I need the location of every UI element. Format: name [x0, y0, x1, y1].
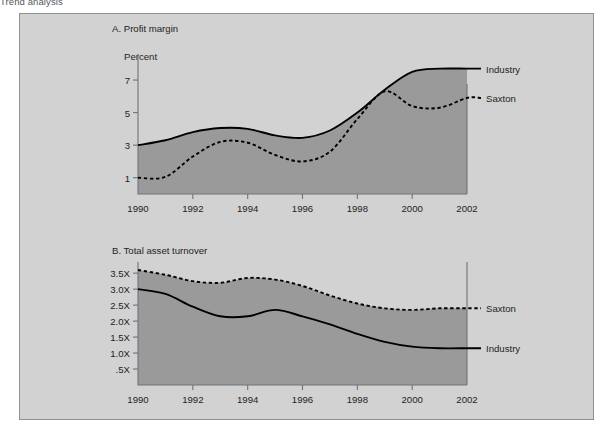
series-label-saxton: Saxton: [486, 92, 516, 103]
x-tick-label: 1990: [127, 394, 148, 405]
x-tick-label: 1990: [127, 203, 148, 214]
y-tick-label: 5: [125, 107, 130, 118]
y-tick-label: 2.5X: [110, 300, 130, 311]
chart-profit-margin: A. Profit margin Percent 135719901992199…: [20, 14, 595, 224]
y-tick-label: 1.0X: [110, 348, 130, 359]
x-tick-label: 1994: [237, 203, 258, 214]
y-tick-label: 3: [125, 140, 130, 151]
series-label-saxton: Saxton: [486, 303, 516, 314]
x-tick-label: 2000: [401, 394, 422, 405]
y-tick-label: 7: [125, 75, 130, 86]
y-tick-label: 1: [125, 172, 130, 183]
chart-a-canvas: [20, 14, 595, 224]
y-tick-label: 3.5X: [110, 268, 130, 279]
x-tick-label: 1992: [182, 203, 203, 214]
figure-caption: Trend analysis: [0, 0, 63, 7]
x-tick-label: 1992: [182, 394, 203, 405]
x-tick-label: 1998: [347, 394, 368, 405]
x-tick-label: 2000: [401, 203, 422, 214]
x-tick-label: 1996: [292, 394, 313, 405]
x-tick-label: 1996: [292, 203, 313, 214]
x-tick-label: 2002: [456, 203, 477, 214]
y-tick-label: 1.5X: [110, 332, 130, 343]
x-tick-label: 1994: [237, 394, 258, 405]
y-tick-label: 3.0X: [110, 284, 130, 295]
series-label-industry: Industry: [486, 63, 520, 74]
chart-b-canvas: [20, 224, 595, 421]
y-tick-label: 2.0X: [110, 316, 130, 327]
chart-area-fill: [138, 270, 467, 385]
series-label-industry: Industry: [486, 343, 520, 354]
x-tick-label: 2002: [456, 394, 477, 405]
chart-area-fill: [138, 68, 467, 194]
x-tick-label: 1998: [347, 203, 368, 214]
screenshot-root: Trend analysis A. Profit margin Percent …: [0, 0, 612, 433]
figure-panel: A. Profit margin Percent 135719901992199…: [19, 13, 594, 420]
chart-total-asset-turnover: B. Total asset turnover .5X1.0X1.5X2.0X2…: [20, 224, 595, 421]
y-tick-label: .5X: [116, 364, 130, 375]
